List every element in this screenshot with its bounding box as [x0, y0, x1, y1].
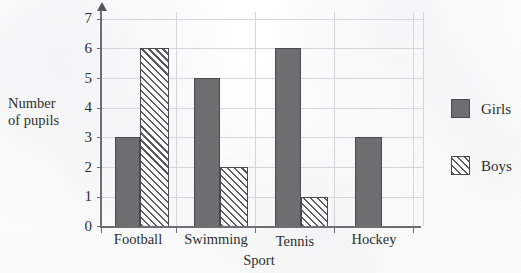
- gridline-vertical-3: [334, 12, 335, 226]
- y-tick-label-5: 5: [72, 71, 92, 86]
- bar-tennis-boys: [301, 197, 328, 227]
- legend-label-girls: Girls: [481, 101, 511, 117]
- gridline-horizontal-7: [101, 19, 423, 20]
- y-tick-4: [97, 108, 102, 109]
- y-axis-title: Number of pupils: [8, 95, 88, 129]
- gridline-vertical-2: [255, 12, 256, 226]
- x-tick-label-hockey: Hockey: [334, 231, 414, 247]
- x-tick-label-tennis: Tennis: [255, 233, 335, 249]
- y-axis-arrowhead: [97, 2, 107, 11]
- y-tick-1: [97, 197, 102, 198]
- y-tick-label-6: 6: [72, 41, 92, 56]
- y-tick-label-2: 2: [72, 160, 92, 175]
- bar-chart: 7 6 5 4 3 2 1 0 Number of pupils Footbal…: [0, 0, 521, 273]
- x-tick-label-swimming: Swimming: [176, 231, 256, 247]
- legend-label-boys: Boys: [481, 158, 512, 174]
- legend-swatch-boys-icon: [451, 156, 470, 175]
- gridline-vertical-4: [413, 12, 414, 226]
- x-tick-label-football: Football: [98, 231, 178, 247]
- bar-tennis-girls: [275, 48, 301, 227]
- y-axis-title-line-1: Number: [8, 95, 88, 112]
- y-tick-label-1: 1: [72, 189, 92, 204]
- bar-football-boys: [140, 48, 169, 227]
- bar-hockey-girls: [355, 137, 382, 227]
- y-axis-title-line-2: of pupils: [8, 112, 88, 129]
- x-axis-title: Sport: [199, 252, 319, 268]
- legend-item-boys: Boys: [451, 156, 512, 175]
- y-axis-line: [100, 10, 102, 227]
- y-tick-label-7: 7: [72, 11, 92, 26]
- legend-item-girls: Girls: [451, 99, 511, 118]
- y-tick-3: [97, 137, 102, 138]
- y-tick-label-0: 0: [72, 219, 92, 234]
- gridline-vertical-5: [423, 12, 424, 226]
- bar-football-girls: [115, 137, 140, 227]
- legend-swatch-girls-icon: [451, 99, 470, 118]
- y-tick-label-3: 3: [72, 130, 92, 145]
- x-axis-line: [100, 226, 421, 228]
- bar-swimming-boys: [220, 167, 248, 227]
- bar-swimming-girls: [194, 78, 220, 227]
- y-tick-6: [97, 48, 102, 49]
- y-tick-7: [97, 19, 102, 20]
- gridline-vertical-1: [176, 12, 177, 226]
- y-tick-2: [97, 167, 102, 168]
- y-tick-5: [97, 78, 102, 79]
